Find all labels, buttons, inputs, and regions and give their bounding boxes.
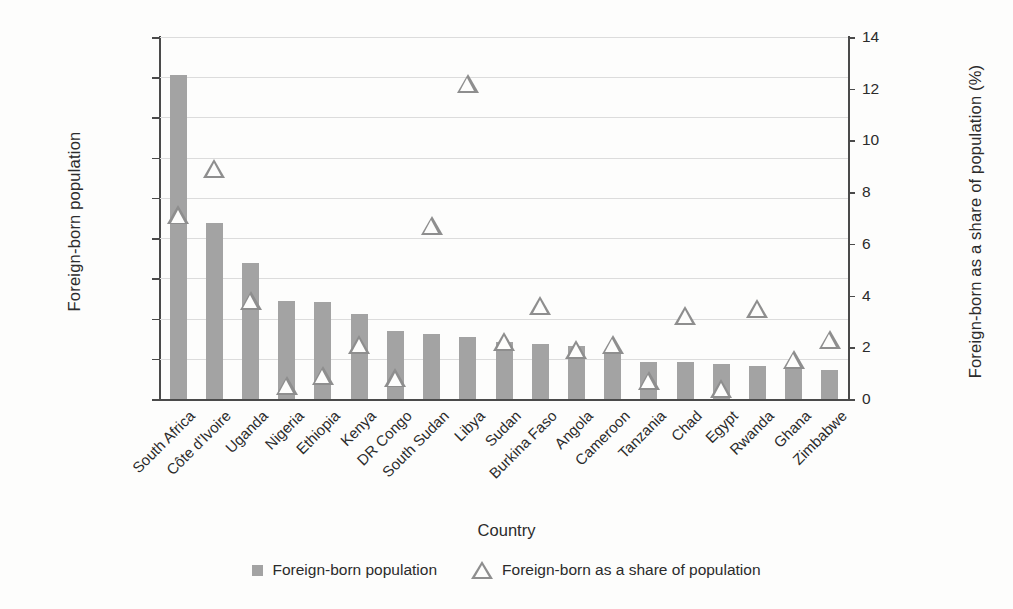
bar <box>749 366 766 399</box>
y-axis-left-tick <box>152 198 159 200</box>
triangle-marker <box>529 296 551 315</box>
triangle-marker <box>565 340 587 359</box>
y-axis-left-tick <box>152 238 159 240</box>
bar <box>206 223 223 399</box>
gridline <box>160 238 848 239</box>
triangle-marker <box>638 371 660 390</box>
legend-item[interactable]: Foreign-born population <box>252 561 437 579</box>
gridline <box>160 319 848 320</box>
y-axis-right-tick-label: 0 <box>862 390 922 408</box>
bar <box>785 367 802 399</box>
gridline <box>160 198 848 199</box>
triangle-marker <box>602 335 624 354</box>
gridline <box>160 77 848 78</box>
y-axis-left-tick <box>152 37 159 39</box>
y-axis-left-title: Foreign-born population <box>65 52 84 392</box>
legend-item-label: Foreign-born as a share of population <box>502 561 761 579</box>
y-axis-right-tick <box>848 37 855 39</box>
y-axis-left-line <box>159 36 161 400</box>
y-axis-right-tick <box>848 244 855 246</box>
y-axis-left-tick <box>152 278 159 280</box>
triangle-marker <box>421 216 443 235</box>
y-axis-right-tick-label: 12 <box>862 80 922 98</box>
bar <box>821 370 838 399</box>
y-axis-right-tick-label: 2 <box>862 338 922 356</box>
y-axis-left-tick <box>152 77 159 79</box>
chart-legend: Foreign-born populationForeign-born as a… <box>0 561 1013 579</box>
gridline <box>160 158 848 159</box>
y-axis-left-tick <box>152 158 159 160</box>
y-axis-right-line <box>848 36 850 400</box>
plot-area <box>160 37 848 399</box>
y-axis-left-tick <box>152 399 159 401</box>
bar <box>604 352 621 399</box>
x-axis-line <box>159 399 849 401</box>
y-axis-left-tick <box>152 359 159 361</box>
triangle-marker <box>710 379 732 398</box>
bar <box>459 337 476 399</box>
y-axis-right-tick-label: 4 <box>862 287 922 305</box>
gridline <box>160 37 848 38</box>
chart-figure: Foreign-born population Foreign-born as … <box>0 0 1013 609</box>
y-axis-right-tick-label: 10 <box>862 131 922 149</box>
gridline <box>160 117 848 118</box>
triangle-marker <box>312 366 334 385</box>
bar <box>351 314 368 399</box>
legend-triangle-icon <box>471 561 493 579</box>
bar <box>677 362 694 399</box>
legend-item[interactable]: Foreign-born as a share of population <box>471 561 761 579</box>
triangle-marker <box>457 74 479 93</box>
y-axis-right-tick <box>848 140 855 142</box>
triangle-marker <box>746 299 768 318</box>
triangle-marker <box>203 159 225 178</box>
y-axis-right-tick-label: 14 <box>862 28 922 46</box>
y-axis-right-tick <box>848 192 855 194</box>
legend-item-label: Foreign-born population <box>272 561 437 579</box>
y-axis-left-tick <box>152 319 159 321</box>
y-axis-right-title: Foreign-born as a share of population (%… <box>966 32 985 412</box>
y-axis-right-tick <box>848 399 855 401</box>
triangle-marker <box>819 330 841 349</box>
y-axis-right-tick <box>848 89 855 91</box>
triangle-marker <box>348 335 370 354</box>
bar <box>532 344 549 400</box>
triangle-marker <box>493 332 515 351</box>
triangle-marker <box>240 291 262 310</box>
bar <box>387 331 404 399</box>
triangle-marker <box>276 376 298 395</box>
y-axis-left-tick <box>152 117 159 119</box>
gridline <box>160 278 848 279</box>
triangle-marker <box>674 306 696 325</box>
legend-square-icon <box>252 565 263 576</box>
bar <box>170 75 187 399</box>
bar <box>242 263 259 399</box>
triangle-marker <box>167 205 189 224</box>
y-axis-right-tick-label: 8 <box>862 183 922 201</box>
y-axis-right-tick <box>848 296 855 298</box>
y-axis-right-tick <box>848 347 855 349</box>
bar <box>423 334 440 399</box>
triangle-marker <box>783 350 805 369</box>
y-axis-right-tick-label: 6 <box>862 235 922 253</box>
triangle-marker <box>384 368 406 387</box>
